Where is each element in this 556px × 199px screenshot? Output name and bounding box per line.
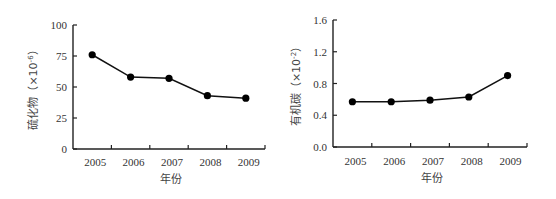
axes: 025507510020052006200720082009: [51, 19, 266, 168]
y-axis-title: 硫化物（×10-6）: [26, 44, 40, 129]
x-tick-label: 2007: [161, 156, 184, 168]
axes: 0.00.40.81.21.620052006200720082009: [313, 14, 527, 167]
x-axis-title: 年份: [421, 171, 443, 185]
data-point-marker: [504, 72, 511, 79]
x-tick-label: 2009: [238, 156, 261, 168]
y-tick-label: 0.4: [313, 109, 327, 121]
data-point-marker: [465, 93, 472, 100]
y-tick-label: 25: [56, 112, 68, 124]
y-tick-label: 1.2: [313, 46, 327, 58]
data-point-marker: [388, 98, 395, 105]
x-tick-label: 2005: [84, 156, 107, 168]
data-point-marker: [349, 98, 356, 105]
y-tick-label: 100: [51, 19, 68, 31]
data-point-marker: [242, 95, 249, 102]
data-point-marker: [204, 92, 211, 99]
data-series: [349, 72, 511, 105]
x-tick-label: 2006: [383, 155, 406, 167]
data-point-marker: [165, 75, 172, 82]
organic-carbon-chart: 0.00.40.81.21.620052006200720082009年份有机碳…: [289, 14, 527, 185]
y-tick-label: 50: [56, 81, 68, 93]
x-tick-label: 2009: [500, 155, 523, 167]
x-tick-label: 2006: [123, 156, 146, 168]
x-tick-label: 2008: [461, 155, 484, 167]
x-tick-label: 2008: [199, 156, 222, 168]
data-series: [89, 51, 250, 102]
x-tick-label: 2005: [344, 155, 367, 167]
x-axis-title: 年份: [160, 172, 182, 186]
y-tick-label: 1.6: [313, 14, 327, 26]
y-tick-label: 0: [62, 143, 68, 155]
data-point-marker: [89, 51, 96, 58]
y-axis-title: 有机碳（×10-2）: [289, 41, 303, 126]
sulfide-chart: 025507510020052006200720082009年份硫化物（×10-…: [26, 19, 265, 186]
data-point-marker: [127, 73, 134, 80]
y-tick-label: 0.8: [313, 78, 327, 90]
y-tick-label: 75: [56, 50, 68, 62]
x-tick-label: 2007: [422, 155, 445, 167]
y-tick-label: 0.0: [313, 141, 327, 153]
figure: 025507510020052006200720082009年份硫化物（×10-…: [0, 0, 556, 199]
data-point-marker: [426, 97, 433, 104]
